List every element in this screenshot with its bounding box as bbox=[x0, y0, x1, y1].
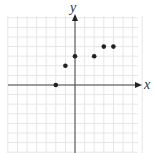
x-axis-arrow-icon bbox=[135, 82, 142, 88]
data-point bbox=[92, 54, 97, 59]
axes bbox=[8, 14, 142, 153]
data-point bbox=[111, 44, 116, 49]
y-axis-label: y bbox=[68, 0, 77, 15]
data-point bbox=[54, 83, 59, 88]
x-axis-label: x bbox=[143, 77, 151, 92]
scatter-plot: x y bbox=[0, 0, 155, 153]
data-point bbox=[73, 54, 78, 59]
data-point bbox=[63, 64, 68, 69]
data-point bbox=[102, 44, 107, 49]
